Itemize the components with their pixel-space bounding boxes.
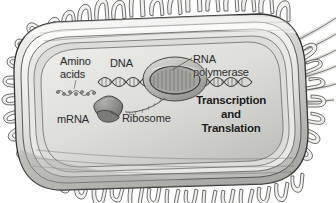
diagram-artwork	[0, 0, 336, 203]
label-ribosome: Ribosome	[122, 112, 171, 125]
label-dna: DNA	[110, 57, 133, 70]
bacterial-cell-diagram: Amino acids DNA RNA polymerase mRNA Ribo…	[0, 0, 336, 203]
label-amino-acids: Amino acids	[60, 55, 91, 80]
label-transcription-and-translation: Transcription and Translation	[182, 93, 280, 135]
label-rna-polymerase: RNA polymerase	[193, 53, 249, 78]
label-mrna: mRNA	[57, 113, 89, 126]
